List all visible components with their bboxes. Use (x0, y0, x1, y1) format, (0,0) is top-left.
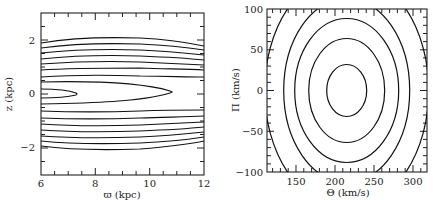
left-contours (41, 38, 204, 150)
left-ytick-2: 2 (29, 35, 35, 46)
left-xtick-10: 10 (143, 178, 156, 189)
right-xtick-300: 300 (403, 176, 422, 187)
right-panel: 150 200 250 300 100 50 0 −50 −100 Θ (km/… (230, 0, 429, 200)
left-xtick-12: 12 (198, 178, 211, 189)
right-ytick-50: 50 (250, 44, 263, 55)
left-xtick-8: 8 (92, 178, 98, 189)
left-y-axis-label: z (kpc) (3, 77, 14, 111)
right-x-axis-label: Θ (km/s) (326, 187, 369, 198)
right-ytick-neg100: −100 (236, 167, 263, 178)
left-panel: 6 8 10 12 2 0 −2 ϖ (kpc) z (kpc) (3, 13, 210, 200)
right-xtick-150: 150 (286, 176, 305, 187)
right-xtick-250: 250 (364, 176, 383, 187)
right-contours (265, 0, 429, 200)
right-ytick-neg50: −50 (242, 126, 263, 137)
right-y-axis-label: Π (km/s) (230, 68, 241, 112)
right-y-ticks (267, 17, 427, 164)
left-x-axis-label: ϖ (kpc) (103, 189, 140, 200)
figure: 6 8 10 12 2 0 −2 ϖ (kpc) z (kpc) (0, 0, 433, 200)
right-plot-frame (267, 9, 427, 172)
right-xtick-200: 200 (325, 176, 344, 187)
right-ytick-0: 0 (257, 85, 263, 96)
left-ytick-neg2: −2 (20, 142, 35, 153)
left-xtick-6: 6 (38, 178, 44, 189)
right-ytick-100: 100 (244, 4, 263, 15)
left-ytick-0: 0 (29, 88, 35, 99)
